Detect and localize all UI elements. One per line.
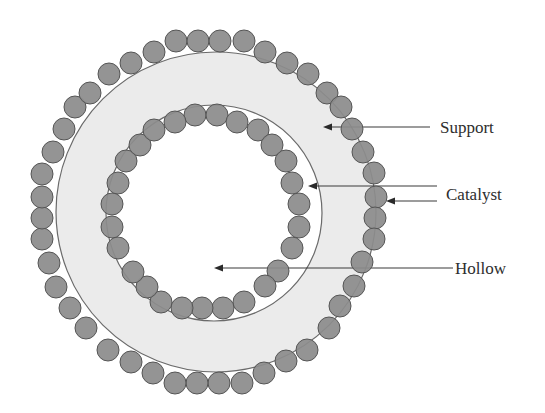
outer-catalyst-particle [209,30,231,52]
outer-catalyst-particle [276,52,298,74]
outer-catalyst-particle [352,141,374,163]
outer-catalyst-particle [363,228,385,250]
inner-catalyst-particle [101,216,123,238]
outer-catalyst-particle [31,186,53,208]
outer-catalyst-particle [59,297,81,319]
inner-catalyst-particle [233,291,255,313]
outer-catalyst-particle [351,251,373,273]
outer-catalyst-particle [297,63,319,85]
outer-catalyst-particle [98,63,120,85]
catalyst-label: Catalyst [446,185,502,204]
hollow-label: Hollow [455,259,507,278]
inner-catalyst-particle [122,261,144,283]
outer-catalyst-particle [318,317,340,339]
outer-catalyst-particle [143,41,165,63]
outer-catalyst-particle [296,339,318,361]
outer-catalyst-particle [38,252,60,274]
outer-catalyst-particle [142,362,164,384]
outer-catalyst-particle [42,141,64,163]
inner-catalyst-particle [281,237,303,259]
outer-catalyst-particle [231,372,253,394]
inner-catalyst-particle [101,193,123,215]
inner-catalyst-particle [212,297,234,319]
outer-catalyst-particle [330,96,352,118]
inner-catalyst-particle [107,237,129,259]
outer-catalyst-particle [79,82,101,104]
outer-catalyst-particle [53,118,75,140]
outer-catalyst-particle [75,317,97,339]
outer-catalyst-particle [364,207,386,229]
outer-catalyst-particle [343,275,365,297]
inner-catalyst-particle [275,150,297,172]
inner-catalyst-particle [191,297,213,319]
outer-catalyst-particle [45,276,67,298]
inner-catalyst-particle [254,275,276,297]
outer-catalyst-particle [187,30,209,52]
outer-catalyst-particle [341,118,363,140]
outer-catalyst-particle [120,52,142,74]
outer-catalyst-particle [363,162,385,184]
outer-catalyst-particle [31,163,53,185]
outer-catalyst-particle [275,350,297,372]
outer-catalyst-particle [120,351,142,373]
labels: Support Catalyst Hollow [440,118,507,278]
outer-catalyst-particle [254,41,276,63]
inner-catalyst-particle [206,104,228,126]
outer-catalyst-particle [165,30,187,52]
inner-catalyst-particle [281,172,303,194]
outer-catalyst-particle [329,295,351,317]
outer-catalyst-particle [97,339,119,361]
outer-catalyst-particle [186,372,208,394]
support-label: Support [440,118,494,137]
inner-catalyst-particle [107,172,129,194]
inner-catalyst-particle [171,297,193,319]
inner-catalyst-particle [184,104,206,126]
inner-catalyst-particle [288,216,310,238]
outer-catalyst-particle [365,186,387,208]
inner-catalyst-particle [164,111,186,133]
outer-catalyst-particle [208,372,230,394]
outer-catalyst-particle [253,362,275,384]
catalyst-diagram: Support Catalyst Hollow [0,0,545,413]
outer-catalyst-particle [233,30,255,52]
inner-catalyst-particle [143,119,165,141]
inner-catalyst-particle [288,193,310,215]
outer-catalyst-particle [164,372,186,394]
outer-catalyst-particle [31,207,53,229]
outer-catalyst-particle [31,228,53,250]
inner-catalyst-particle [226,111,248,133]
